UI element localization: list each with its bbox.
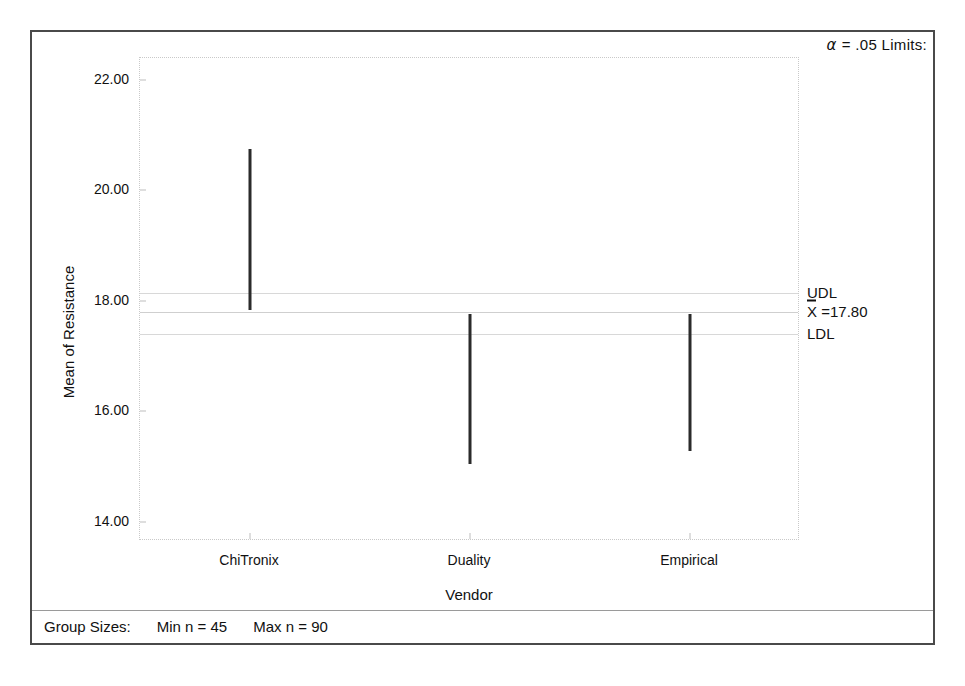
x-axis-tick-mark — [250, 533, 251, 539]
y-axis-tick-label: 18.00 — [94, 292, 129, 308]
grand-mean-label: X =17.80 — [807, 302, 867, 319]
group-sizes-footer: Group Sizes:Min n = 45Max n = 90 — [44, 618, 354, 635]
x-axis-tick-mark — [470, 533, 471, 539]
min-n-value: Min n = 45 — [157, 618, 227, 635]
footer-divider — [32, 610, 933, 611]
x-axis-tick-label: ChiTronix — [219, 552, 278, 568]
limit-annotations: UDL X =17.80 LDL — [807, 32, 937, 643]
y-axis-tick-label: 14.00 — [94, 513, 129, 529]
reference-line-grand-mean — [140, 312, 798, 313]
interval-bar — [469, 314, 472, 464]
y-axis-tick-mark — [140, 411, 146, 412]
interval-bar — [249, 149, 252, 310]
plot-area — [139, 57, 799, 540]
x-axis-tick-mark — [690, 533, 691, 539]
x-axis-tick-label: Duality — [448, 552, 491, 568]
x-axis-title: Vendor — [445, 586, 493, 603]
ldl-label: LDL — [807, 325, 835, 342]
x-bar-symbol: X — [807, 302, 817, 319]
y-axis-tick-label: 22.00 — [94, 71, 129, 87]
y-axis-tick-mark — [140, 521, 146, 522]
y-axis-tick-labels: 14.0016.0018.0020.0022.00 — [32, 32, 139, 643]
y-axis-tick-mark — [140, 190, 146, 191]
y-axis-tick-mark — [140, 300, 146, 301]
x-axis-tick-label: Empirical — [660, 552, 718, 568]
interval-bar — [689, 314, 692, 451]
y-axis-tick-label: 20.00 — [94, 181, 129, 197]
analysis-of-means-chart: α = .05 Limits: Mean of Resistance 14.00… — [30, 30, 935, 645]
grand-mean-value: =17.80 — [817, 302, 867, 319]
udl-label: UDL — [807, 283, 837, 300]
y-axis-tick-label: 16.00 — [94, 402, 129, 418]
max-n-value: Max n = 90 — [253, 618, 328, 635]
group-sizes-label: Group Sizes: — [44, 618, 131, 635]
reference-line-UDL — [140, 293, 798, 294]
y-axis-tick-mark — [140, 80, 146, 81]
